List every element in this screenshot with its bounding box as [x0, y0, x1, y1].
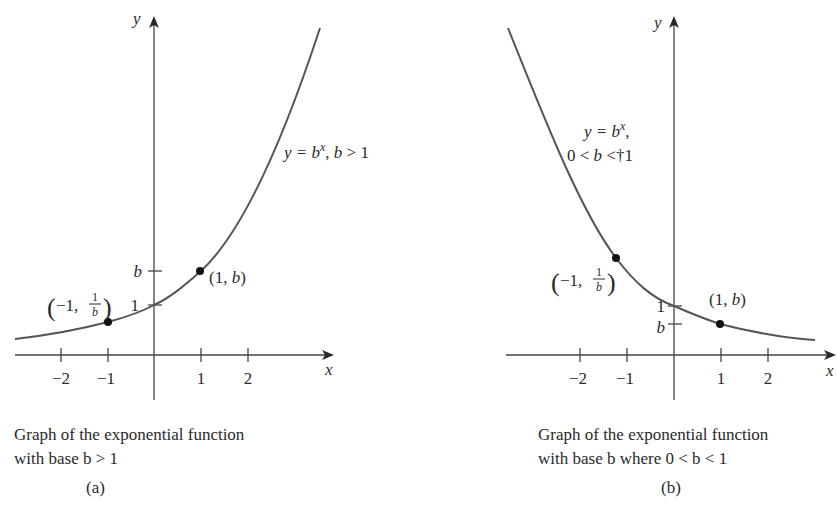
svg-text:−1,: −1,: [56, 296, 78, 315]
panel-a-x-axis-label: x: [324, 360, 333, 379]
svg-text:1: 1: [596, 265, 602, 279]
panel-a-x-tick-label: 2: [244, 369, 253, 388]
panel-b-x-tick-label: 2: [764, 369, 773, 388]
svg-text:): ): [103, 293, 112, 322]
panel-b-y-axis-label: y: [652, 13, 662, 32]
panel-a-curve-label: y = bx, b > 1: [282, 140, 369, 162]
panel-b-y-tick-label: b: [657, 318, 666, 337]
panel-b-caption: Graph of the exponential function with b…: [538, 423, 768, 471]
svg-text:−1,: −1,: [560, 271, 582, 290]
panel-a-caption-line1: Graph of the exponential function: [14, 423, 244, 447]
panel-b-x-tick-label: −1: [616, 369, 634, 388]
svg-text:1: 1: [92, 290, 98, 304]
panel-b-point-neg1: [612, 254, 620, 262]
svg-text:b: b: [92, 305, 98, 319]
panel-b-point-label-1: (1, b): [709, 290, 746, 309]
panel-a-tag: (a): [86, 478, 105, 498]
panel-b-caption-line1: Graph of the exponential function: [538, 423, 768, 447]
panel-a-caption: Graph of the exponential function with b…: [14, 423, 244, 471]
panel-b-graph: y x −2 −1 1 2 1 b y = bx, 0 < b <†1 ( −1…: [506, 13, 834, 400]
panel-b-caption-line2: with base b where 0 < b < 1: [538, 447, 768, 471]
svg-text:(: (: [551, 268, 560, 297]
panel-a-point-label-1: (1, b): [209, 268, 246, 287]
panel-a-point-label-neg1: ( −1, 1 b ): [47, 290, 112, 322]
panel-b-curve-label-line1: y = bx,: [582, 119, 630, 141]
panel-b-x-tick-label: 1: [717, 369, 726, 388]
panel-b-point-label-neg1: ( −1, 1 b ): [551, 265, 616, 297]
panel-b-x-axis-label: x: [825, 361, 834, 380]
panel-a-y-axis-label: y: [131, 9, 141, 28]
panel-a-x-tick-label: −1: [97, 369, 115, 388]
panel-a-curve: [15, 28, 320, 339]
panel-a-graph: y x −2 −1 1 2 1 b y = bx, b > 1 ( −1, 1 …: [15, 9, 369, 400]
svg-text:(: (: [47, 293, 56, 322]
panel-b-x-tick-label: −2: [569, 369, 587, 388]
panel-a-y-ticks: [148, 271, 162, 305]
panel-a-caption-line2: with base b > 1: [14, 447, 244, 471]
panel-b-tag: (b): [661, 478, 681, 498]
svg-text:): ): [607, 268, 616, 297]
panel-a-point-1: [196, 267, 204, 275]
panel-a-y-tick-label: b: [134, 262, 143, 281]
panel-a-y-tick-label: 1: [131, 296, 140, 315]
svg-text:b: b: [596, 280, 602, 294]
panel-b-curve-label-line2: 0 < b <†1: [567, 146, 633, 165]
panel-a-x-tick-label: −2: [52, 369, 70, 388]
panel-b-y-tick-label: 1: [657, 297, 666, 316]
panel-b-point-1: [716, 320, 724, 328]
panel-a-x-tick-label: 1: [197, 369, 206, 388]
